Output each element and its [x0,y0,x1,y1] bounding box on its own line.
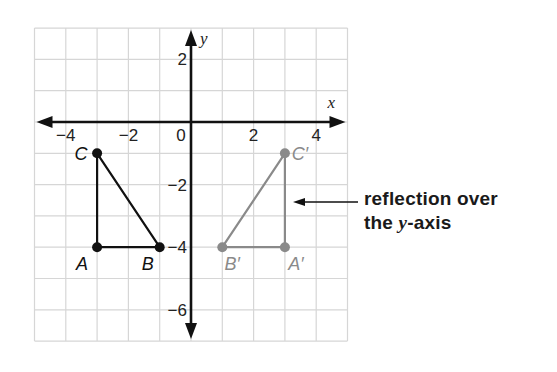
y-axis-down-arrow-icon [185,323,197,339]
annotation-line-1: reflection over [364,187,498,211]
y-axis-label: y [198,29,208,48]
vertex-label-prime: B′ [225,254,241,274]
y-tick-label: −2 [168,176,187,195]
vertex-point-prime [280,148,290,158]
y-tick-label: −4 [168,238,187,257]
annotation-arrow [293,198,358,206]
y-axis-up-arrow-icon [185,30,197,46]
vertex-point [92,242,102,252]
reflection-annotation: reflection over the y-axis [364,187,498,235]
vertex-point-prime [217,242,227,252]
annotation-suffix: -axis [407,212,451,233]
annotation-line-2: the y-axis [364,211,498,235]
x-tick-label: −2 [119,126,138,145]
x-axis-left-arrow-icon [37,116,53,128]
annotation-variable: y [399,212,408,233]
vertex-label: C [75,144,89,164]
annotation-prefix: the [364,212,399,233]
vertex-point [92,148,102,158]
vertex-point-prime [280,242,290,252]
vertex-label: A [75,254,88,274]
y-tick-label: 2 [178,50,187,69]
x-tick-label: 4 [311,126,320,145]
x-tick-label: 0 [176,126,185,145]
x-axis-label: x [327,93,336,112]
y-tick-label: −6 [168,301,187,320]
coordinate-plane: xy −4−20242−2−4−6 ABC A′B′C′ [0,0,557,372]
x-tick-label: 2 [249,126,258,145]
triangle-a-prime-b-prime-c-prime: A′B′C′ [217,144,308,274]
vertex-label-prime: A′ [287,254,304,274]
x-axis-right-arrow-icon [330,116,346,128]
vertex-label-prime: C′ [292,144,309,164]
vertex-point [155,242,165,252]
vertex-label: B [142,254,154,274]
triangle-abc: ABC [75,144,165,274]
x-tick-label: −4 [56,126,75,145]
arrow-head-icon [293,198,305,206]
